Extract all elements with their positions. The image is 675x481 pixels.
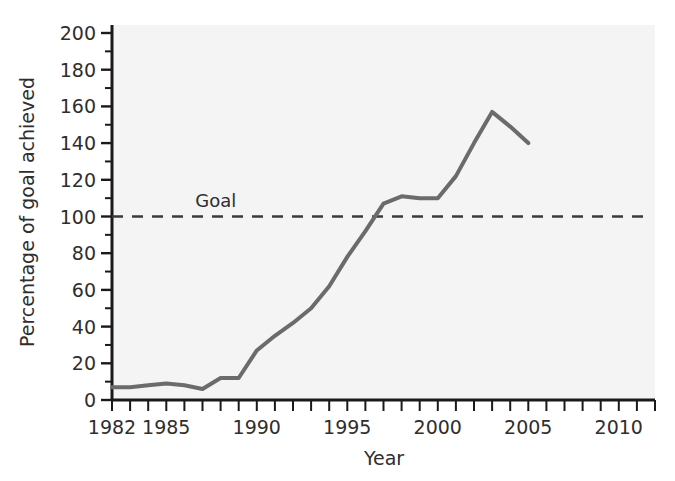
y-tick-label: 120 [60,169,96,191]
y-tick-label: 140 [60,132,96,154]
y-tick-label: 20 [72,352,96,374]
goal-label: Goal [195,190,236,211]
x-tick-label: 2005 [504,416,552,438]
y-tick-label: 200 [60,22,96,44]
x-tick-label: 1990 [233,416,281,438]
x-tick-label: 1995 [323,416,371,438]
line-chart: 020406080100120140160180200 198219851990… [0,0,675,481]
plot-area-background [112,25,655,400]
y-tick-label: 160 [60,95,96,117]
y-tick-label: 80 [72,242,96,264]
x-tick-label: 2010 [595,416,643,438]
x-tick-label: 2000 [414,416,462,438]
x-axis-title: Year [363,447,404,469]
x-tick-label: 1985 [142,416,190,438]
chart-figure: 020406080100120140160180200 198219851990… [0,0,675,481]
y-tick-label: 100 [60,206,96,228]
x-tick-label: 1982 [88,416,136,438]
y-tick-label: 60 [72,279,96,301]
y-tick-label: 180 [60,59,96,81]
y-axis-title: Percentage of goal achieved [16,77,38,347]
y-tick-label: 40 [72,316,96,338]
y-tick-label: 0 [84,389,96,411]
